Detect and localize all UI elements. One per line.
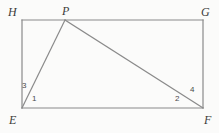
vertex-label-f: F xyxy=(204,114,211,126)
angle-label-4: 4 xyxy=(190,86,194,94)
angle-label-3: 3 xyxy=(22,82,26,90)
vertex-label-g: G xyxy=(201,6,210,18)
vertex-label-p: P xyxy=(62,5,69,17)
vertex-label-h: H xyxy=(8,6,17,18)
vertex-label-e: E xyxy=(9,114,16,126)
angle-label-2: 2 xyxy=(175,95,179,103)
segment-PE xyxy=(22,20,65,108)
geometry-figure: H P G E F 1 2 3 4 xyxy=(0,0,219,133)
segment-PF xyxy=(65,20,203,108)
diagram-canvas xyxy=(0,0,219,133)
angle-label-1: 1 xyxy=(32,95,36,103)
